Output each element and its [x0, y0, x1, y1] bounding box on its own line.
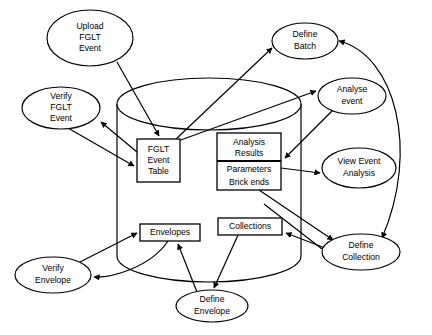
edge-right-curve-to-define-collection — [339, 41, 400, 238]
process-define-envelope[interactable]: Define Envelope — [176, 290, 248, 322]
process-upload-fglt-event[interactable]: Upload FGLT Event — [47, 10, 133, 66]
fglt-event-table[interactable]: FGLT Event Table — [137, 139, 180, 182]
process-verify-envelope[interactable]: Verify Envelope — [15, 257, 91, 293]
process-analyse-event[interactable]: Analyse event — [318, 78, 386, 114]
process-define-batch[interactable]: Define Batch — [272, 23, 338, 59]
diagram-svg: FGLT Event Table Analysis Results Parame… — [0, 0, 432, 335]
diagram-canvas: FGLT Event Table Analysis Results Parame… — [0, 0, 432, 335]
process-verify-fglt-event[interactable]: Verify FGLT Event — [22, 87, 100, 129]
analysis-results-table[interactable]: Analysis Results Parameters Brick ends — [217, 133, 281, 190]
collections-table[interactable]: Collections — [218, 218, 282, 235]
envelopes-table[interactable]: Envelopes — [140, 224, 200, 241]
process-define-collection[interactable]: Define Collection — [322, 234, 400, 270]
process-view-event-analysis[interactable]: View Event Analysis — [322, 148, 396, 188]
